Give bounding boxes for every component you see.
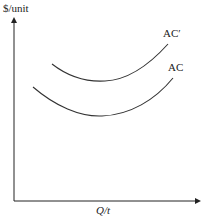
- ac-prime-curve: [52, 44, 168, 81]
- cost-curve-diagram: $/unit Q/t AC′ AC: [0, 0, 204, 216]
- ac-label: AC: [168, 61, 183, 73]
- x-axis-label: Q/t: [96, 204, 111, 216]
- ac-curve: [33, 78, 173, 116]
- y-axis-label: $/unit: [3, 2, 29, 14]
- ac-prime-label: AC′: [163, 27, 181, 39]
